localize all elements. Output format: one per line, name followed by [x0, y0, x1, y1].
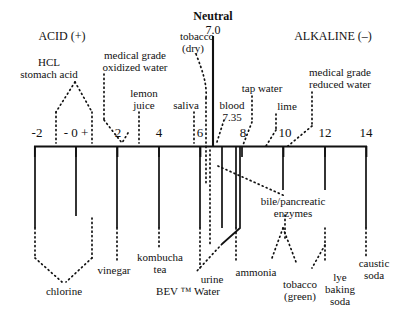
dot-lemon-diag	[122, 133, 128, 143]
lye-line3: soda	[330, 296, 350, 308]
bile-enzymes-line2: enzymes	[274, 208, 312, 220]
tobacco-dry-line1: tobacco	[180, 31, 214, 43]
axis-label-0: - 0 +	[64, 126, 89, 139]
dot-chlorine-r-diag	[66, 258, 92, 282]
lye-line2: baking	[325, 284, 355, 296]
lemon-juice-line2: juice	[133, 100, 154, 112]
lye-line1: lye	[333, 272, 346, 284]
hcl-label-line2: stomach acid	[20, 69, 78, 81]
axis-label-8: 8	[240, 126, 247, 139]
axis-label--2: -2	[32, 126, 43, 139]
alkaline-header: ALKALINE (–)	[294, 31, 372, 43]
acid-header: ACID (+)	[38, 31, 85, 43]
kombucha-line2: tea	[154, 264, 167, 276]
urine-label: urine	[201, 274, 224, 286]
bev-water-label: BEV ™ Water	[156, 286, 220, 298]
blood-line2: 7.35	[222, 112, 241, 124]
dot-tobaccodry-curve	[196, 54, 206, 98]
tobacco-green-line1: tobacco	[283, 279, 317, 291]
axis-label-2: 2	[115, 126, 122, 139]
dot-lye-diag	[312, 245, 325, 268]
axis-label-4: 4	[156, 126, 163, 139]
blood-line1: blood	[219, 100, 244, 112]
leader-ammonia-foot	[222, 205, 240, 244]
caustic-soda-line1: caustic	[359, 258, 390, 270]
axis-label-12: 12	[319, 126, 332, 139]
tap-water-label: tap water	[242, 83, 283, 95]
dot-chlorine-l-diag	[35, 258, 62, 282]
hcl-label-line1: HCL	[38, 57, 60, 69]
medical-grade-reduced-water-line2: reduced water	[309, 79, 371, 91]
kombucha-line1: kombucha	[137, 252, 183, 264]
ammonia-label: ammonia	[236, 267, 277, 279]
dot-tobacco-green-l	[272, 228, 283, 258]
bile-enzymes-line1: bile/pancreatic	[261, 196, 326, 208]
tobacco-green-line2: (green)	[284, 291, 316, 303]
dot-hcl-right	[75, 82, 92, 112]
neutral-header: Neutral	[193, 11, 232, 23]
upper-dotted-markers	[194, 98, 210, 246]
axis-label-14: 14	[360, 126, 373, 139]
lime-label: lime	[277, 101, 297, 113]
chlorine-label: chlorine	[46, 286, 82, 298]
axis-label-6: 6	[197, 126, 204, 139]
medical-grade-oxidized-water-line2: oxidized water	[102, 62, 167, 74]
lemon-juice-line1: lemon	[130, 88, 158, 100]
ph-scale-diagram: ACID (+) Neutral 7.0 ALKALINE (–) HCL st…	[0, 0, 404, 320]
dot-mgrw-diag	[288, 126, 312, 146]
caustic-soda-line2: soda	[364, 270, 384, 282]
vinegar-label: vinegar	[98, 265, 131, 277]
dot-blood	[216, 120, 224, 145]
dot-lime-diag	[266, 130, 276, 146]
tobacco-dry-line2: (dry)	[182, 43, 204, 55]
medical-grade-oxidized-water-line1: medical grade	[104, 50, 166, 62]
medical-grade-reduced-water-line1: medical grade	[309, 67, 371, 79]
dot-hcl-left	[56, 82, 75, 112]
axis-label-10: 10	[279, 126, 292, 139]
dot-bile-to-axis	[218, 166, 285, 196]
saliva-label: saliva	[173, 100, 199, 112]
